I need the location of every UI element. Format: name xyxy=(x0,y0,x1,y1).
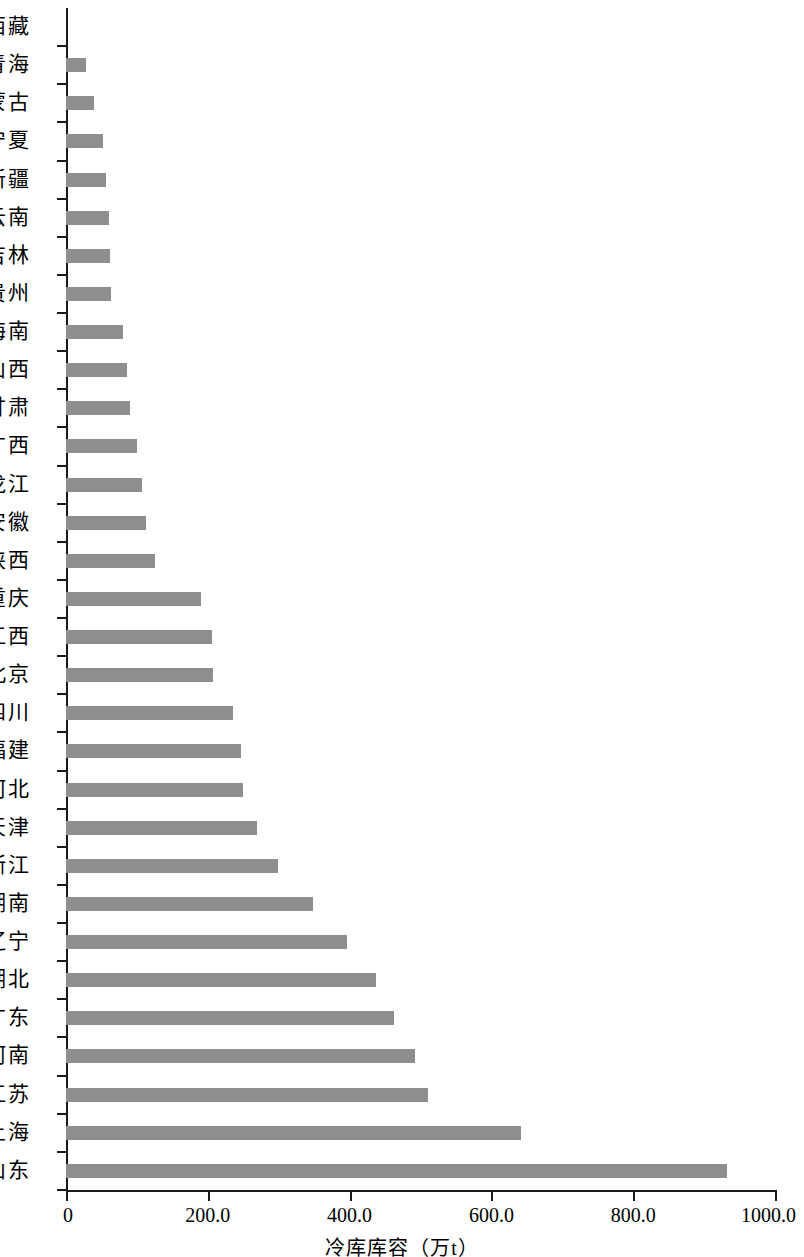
category-tick xyxy=(57,617,66,619)
bar[interactable] xyxy=(66,58,86,72)
category-tick xyxy=(57,922,66,924)
bar-row[interactable]: 广东 xyxy=(66,999,775,1037)
bar[interactable] xyxy=(66,401,130,415)
bar-row[interactable]: 甘肃 xyxy=(66,389,775,427)
bar-row[interactable]: 河南 xyxy=(66,1037,775,1075)
bar-row[interactable]: 山东 xyxy=(66,1152,775,1190)
category-tick xyxy=(57,1189,66,1191)
bar[interactable] xyxy=(66,516,146,530)
bar-row[interactable]: 江西 xyxy=(66,618,775,656)
bar-row[interactable]: 内蒙古 xyxy=(66,84,775,122)
category-tick xyxy=(57,693,66,695)
bar[interactable] xyxy=(66,211,109,225)
bar-row[interactable]: 浙江 xyxy=(66,847,775,885)
category-label: 新疆 xyxy=(0,169,31,190)
bar-row[interactable]: 陕西 xyxy=(66,542,775,580)
category-tick xyxy=(57,731,66,733)
value-axis-spine xyxy=(66,1190,775,1192)
bar[interactable] xyxy=(66,1049,415,1063)
bar-row[interactable]: 黑龙江 xyxy=(66,466,775,504)
bar-row[interactable]: 湖北 xyxy=(66,961,775,999)
category-tick xyxy=(57,350,66,352)
category-label: 西藏 xyxy=(0,16,31,37)
bar-row[interactable]: 河北 xyxy=(66,771,775,809)
bar[interactable] xyxy=(66,134,103,148)
bar-row[interactable]: 青海 xyxy=(66,46,775,84)
bar[interactable] xyxy=(66,592,201,606)
category-tick xyxy=(57,1075,66,1077)
bar[interactable] xyxy=(66,1164,727,1178)
bar[interactable] xyxy=(66,973,376,987)
bar-row[interactable]: 辽宁 xyxy=(66,923,775,961)
bar[interactable] xyxy=(66,744,241,758)
bar[interactable] xyxy=(66,783,243,797)
bar[interactable] xyxy=(66,668,213,682)
category-label: 云南 xyxy=(0,207,31,228)
bar-row[interactable]: 新疆 xyxy=(66,161,775,199)
category-tick xyxy=(57,198,66,200)
x-axis-tick xyxy=(208,1190,210,1201)
category-tick xyxy=(57,884,66,886)
bar-row[interactable]: 海南 xyxy=(66,313,775,351)
category-tick xyxy=(57,808,66,810)
category-label: 重庆 xyxy=(0,588,31,609)
bar-row[interactable]: 重庆 xyxy=(66,580,775,618)
category-label: 贵州 xyxy=(0,283,31,304)
bar-row[interactable]: 上海 xyxy=(66,1114,775,1152)
bar[interactable] xyxy=(66,897,313,911)
bar[interactable] xyxy=(66,706,233,720)
bar[interactable] xyxy=(66,478,142,492)
x-axis-tick xyxy=(491,1190,493,1201)
x-axis-tick xyxy=(633,1190,635,1201)
bar-row[interactable]: 宁夏 xyxy=(66,122,775,160)
bar-row[interactable]: 天津 xyxy=(66,809,775,847)
bar-row[interactable]: 福建 xyxy=(66,732,775,770)
bar[interactable] xyxy=(66,630,212,644)
category-tick xyxy=(57,465,66,467)
bar-row[interactable]: 西藏 xyxy=(66,8,775,46)
category-label: 海南 xyxy=(0,321,31,342)
bar[interactable] xyxy=(66,859,278,873)
category-tick xyxy=(57,541,66,543)
bar[interactable] xyxy=(66,363,127,377)
bar[interactable] xyxy=(66,96,94,110)
bar[interactable] xyxy=(66,1126,521,1140)
category-label: 黑龙江 xyxy=(0,474,31,495)
bar-row[interactable]: 云南 xyxy=(66,199,775,237)
bar[interactable] xyxy=(66,821,257,835)
bar[interactable] xyxy=(66,287,111,301)
category-label: 安徽 xyxy=(0,512,31,533)
category-label: 内蒙古 xyxy=(0,92,31,113)
category-tick xyxy=(57,83,66,85)
x-axis-tick-label: 600.0 xyxy=(469,1205,514,1225)
category-label: 天津 xyxy=(0,817,31,838)
bar-row[interactable]: 北京 xyxy=(66,656,775,694)
bar[interactable] xyxy=(66,325,123,339)
bar[interactable] xyxy=(66,554,155,568)
bar-row[interactable]: 四川 xyxy=(66,694,775,732)
x-axis-title: 冷库库容（万t） xyxy=(0,1232,804,1257)
bar[interactable] xyxy=(66,1088,428,1102)
category-label: 福建 xyxy=(0,740,31,761)
category-label: 吉林 xyxy=(0,245,31,266)
x-axis-tick-label: 800.0 xyxy=(611,1205,656,1225)
bar[interactable] xyxy=(66,1011,394,1025)
bar-row[interactable]: 山西 xyxy=(66,351,775,389)
bar-row[interactable]: 广西 xyxy=(66,427,775,465)
bar-row[interactable]: 江苏 xyxy=(66,1076,775,1114)
category-label: 河北 xyxy=(0,779,31,800)
plot-area: 西藏青海内蒙古宁夏新疆云南吉林贵州海南山西甘肃广西黑龙江安徽陕西重庆江西北京四川… xyxy=(66,8,775,1190)
bar-row[interactable]: 湖南 xyxy=(66,885,775,923)
bar-row[interactable]: 贵州 xyxy=(66,275,775,313)
category-label: 北京 xyxy=(0,664,31,685)
bar-rows: 西藏青海内蒙古宁夏新疆云南吉林贵州海南山西甘肃广西黑龙江安徽陕西重庆江西北京四川… xyxy=(66,8,775,1190)
category-tick xyxy=(57,388,66,390)
bar-row[interactable]: 吉林 xyxy=(66,237,775,275)
bar[interactable] xyxy=(66,439,137,453)
category-tick xyxy=(57,1036,66,1038)
bar[interactable] xyxy=(66,173,106,187)
category-tick xyxy=(57,503,66,505)
bar-row[interactable]: 安徽 xyxy=(66,504,775,542)
bar[interactable] xyxy=(66,935,347,949)
bar[interactable] xyxy=(66,249,110,263)
